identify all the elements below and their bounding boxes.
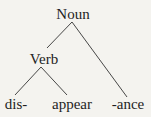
- node-noun: Noun: [56, 7, 89, 22]
- edge-verb-dis: [15, 67, 41, 95]
- edge-verb-appear: [41, 67, 67, 95]
- edge-noun-ance: [72, 22, 127, 97]
- morphology-tree: Noun Verb dis- appear -ance: [0, 0, 151, 117]
- node-verb: Verb: [30, 52, 58, 67]
- node-ance: -ance: [112, 97, 144, 112]
- node-dis: dis-: [5, 97, 28, 112]
- node-appear: appear: [52, 97, 92, 112]
- edge-noun-verb: [47, 22, 72, 48]
